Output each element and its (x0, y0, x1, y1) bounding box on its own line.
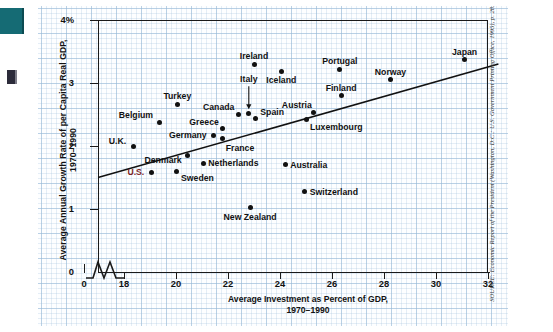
data-point-label: Greece (189, 118, 218, 127)
data-point-label: Austria (282, 101, 312, 110)
y-axis-tick (90, 209, 98, 210)
y-axis-tick-label: 4% (34, 14, 74, 25)
data-point (174, 169, 179, 174)
data-point-label: New Zealand (224, 213, 277, 222)
x-axis-line (98, 272, 490, 273)
plot-area: 01234% U.K.BelgiumU.S.TurkeySwedenDenmar… (98, 20, 488, 272)
data-point (131, 144, 136, 149)
data-point (279, 69, 284, 74)
data-point (236, 112, 241, 117)
x-axis-tick-label: 30 (416, 278, 456, 289)
data-point-label: Belgium (119, 111, 153, 120)
data-point (304, 117, 309, 122)
page-edge-marker-teal (0, 8, 24, 34)
data-point-label: Finland (326, 84, 357, 93)
x-axis-tick-label: 18 (104, 278, 144, 289)
data-point (211, 133, 216, 138)
data-point-label: Portugal (322, 57, 357, 66)
y-axis-tick (90, 20, 98, 21)
x-axis-title: Average Investment as Percent of GDP, 19… (158, 294, 458, 316)
data-point (248, 205, 253, 210)
x-axis-title-line2: 1970–1990 (286, 305, 329, 315)
x-axis-tick-label: 26 (312, 278, 352, 289)
data-point (149, 170, 154, 175)
y-axis-tick (90, 146, 98, 147)
data-point-label: Australia (290, 161, 327, 170)
source-note: SOURCE: Economic Report of the President… (476, 22, 506, 322)
y-axis-tick-label: 0 (34, 266, 74, 277)
data-point-label: Germany (169, 131, 207, 140)
plot-frame (98, 20, 488, 272)
data-point-label: Sweden (181, 174, 214, 183)
data-point-label: Switzerland (310, 188, 358, 197)
data-point-label: Iceland (266, 76, 296, 85)
data-point-label: Canada (203, 103, 234, 112)
data-point (201, 161, 206, 166)
x-axis-tick-label: 0 (64, 278, 104, 289)
x-axis-tick-label: 24 (260, 278, 300, 289)
x-axis-tick-label: 28 (364, 278, 404, 289)
data-point-label: France (226, 144, 255, 153)
data-point-label: Spain (260, 108, 284, 117)
source-note-text: SOURCE: Economic Report of the President… (488, 5, 495, 301)
data-point (339, 93, 344, 98)
figure-page: Average Annual Growth Rate of per Capita… (0, 0, 553, 332)
y-axis-tick-label: 1 (34, 203, 74, 214)
data-point-label: Luxembourg (310, 123, 363, 132)
data-point (252, 62, 257, 67)
data-point-label: Norway (375, 68, 406, 77)
data-point-label: Japan (452, 48, 477, 57)
axis-break-zigzag-icon (84, 258, 124, 280)
data-point-label: Netherlands (208, 159, 258, 168)
x-axis-title-line1: Average Investment as Percent of GDP, (228, 294, 388, 304)
data-point-label: Ireland (240, 52, 269, 61)
page-edge-marker-dark (7, 70, 17, 84)
data-point (175, 102, 180, 107)
x-axis-tick-label: 22 (208, 278, 248, 289)
y-axis-tick (90, 83, 98, 84)
data-point-label: Turkey (163, 92, 191, 101)
data-point-label: U.S. (127, 168, 144, 177)
y-axis-tick-label: 2 (34, 140, 74, 151)
scatter-chart-figure: Average Annual Growth Rate of per Capita… (38, 6, 508, 326)
data-point-label: U.K. (109, 137, 126, 146)
y-axis-tick-label: 3 (34, 77, 74, 88)
data-point (337, 67, 342, 72)
x-axis-tick-label: 20 (156, 278, 196, 289)
data-point-label: Italy (240, 75, 257, 84)
data-point (157, 120, 162, 125)
data-point-label: Denmark (145, 156, 182, 165)
